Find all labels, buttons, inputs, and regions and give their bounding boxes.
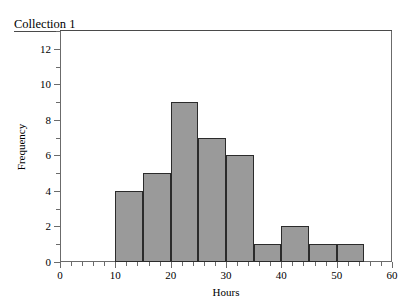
x-axis-tick-major	[226, 262, 227, 268]
x-axis-tick-minor	[215, 262, 216, 266]
y-axis-tick-minor	[56, 173, 60, 174]
x-axis-tick-minor	[193, 262, 194, 266]
x-axis-tick-minor	[93, 262, 94, 266]
y-axis-tick-label: 2	[46, 221, 52, 232]
y-axis-tick-label: 0	[46, 257, 52, 268]
y-axis: Frequency 024681012	[0, 31, 60, 262]
y-axis-tick-label: 12	[40, 43, 51, 54]
x-axis-tick-label: 0	[57, 270, 63, 281]
histogram-bar[interactable]	[281, 226, 309, 262]
x-axis-tick-minor	[204, 262, 205, 266]
y-axis-tick-minor	[56, 102, 60, 103]
x-axis-tick-major	[60, 262, 61, 268]
x-axis-tick-minor	[326, 262, 327, 266]
y-axis-tick-minor	[56, 209, 60, 210]
y-axis-tick-label: 6	[46, 150, 52, 161]
x-axis-tick-minor	[359, 262, 360, 266]
x-axis-tick-minor	[104, 262, 105, 266]
y-axis-tick-minor	[56, 67, 60, 68]
y-axis-tick-label: 10	[40, 79, 51, 90]
collection-title[interactable]: Collection 1	[14, 17, 75, 31]
histogram-bar[interactable]	[226, 155, 254, 262]
x-axis-tick-label: 50	[331, 270, 342, 281]
x-axis-tick-minor	[82, 262, 83, 266]
y-axis-tick-minor	[56, 138, 60, 139]
x-axis-tick-major	[281, 262, 282, 268]
x-axis-tick-minor	[292, 262, 293, 266]
x-axis-tick-minor	[248, 262, 249, 266]
x-axis-tick-label: 10	[110, 270, 121, 281]
histogram-bar[interactable]	[309, 244, 337, 262]
x-axis-tick-minor	[149, 262, 150, 266]
histogram-bar[interactable]	[143, 173, 171, 262]
histogram-bar[interactable]	[198, 138, 226, 262]
x-axis-tick-major	[171, 262, 172, 268]
x-axis-tick-label: 60	[387, 270, 398, 281]
x-axis-tick-major	[115, 262, 116, 268]
y-axis-tick-label: 8	[46, 114, 52, 125]
histogram-plot-area[interactable]	[60, 31, 392, 262]
x-axis-tick-minor	[259, 262, 260, 266]
y-axis-tick-major	[54, 84, 60, 85]
y-axis-tick-minor	[56, 31, 60, 32]
x-axis-tick-minor	[137, 262, 138, 266]
y-axis-tick-major	[54, 49, 60, 50]
x-axis: Hours 0102030405060	[60, 262, 392, 305]
x-axis-tick-minor	[126, 262, 127, 266]
x-axis-tick-label: 20	[165, 270, 176, 281]
x-axis-tick-minor	[237, 262, 238, 266]
y-axis-tick-minor	[56, 244, 60, 245]
x-axis-tick-minor	[381, 262, 382, 266]
x-axis-title: Hours	[213, 287, 240, 298]
y-axis-title: Frequency	[16, 123, 27, 169]
x-axis-tick-minor	[270, 262, 271, 266]
y-axis-tick-label: 4	[46, 185, 52, 196]
x-axis-tick-minor	[182, 262, 183, 266]
x-axis-tick-label: 30	[221, 270, 232, 281]
y-axis-tick-major	[54, 120, 60, 121]
x-axis-tick-minor	[348, 262, 349, 266]
histogram-bar[interactable]	[171, 102, 199, 262]
histogram-bar[interactable]	[254, 244, 282, 262]
y-axis-tick-major	[54, 191, 60, 192]
y-axis-tick-major	[54, 155, 60, 156]
x-axis-tick-label: 40	[276, 270, 287, 281]
histogram-bar[interactable]	[337, 244, 365, 262]
x-axis-tick-major	[392, 262, 393, 268]
histogram-document: Collection 1 Frequency 024681012 Hours 0…	[0, 0, 415, 305]
histogram-bar[interactable]	[115, 191, 143, 262]
x-axis-tick-major	[337, 262, 338, 268]
x-axis-tick-minor	[160, 262, 161, 266]
x-axis-tick-minor	[370, 262, 371, 266]
x-axis-tick-minor	[315, 262, 316, 266]
x-axis-tick-minor	[71, 262, 72, 266]
x-axis-tick-minor	[303, 262, 304, 266]
y-axis-tick-major	[54, 226, 60, 227]
